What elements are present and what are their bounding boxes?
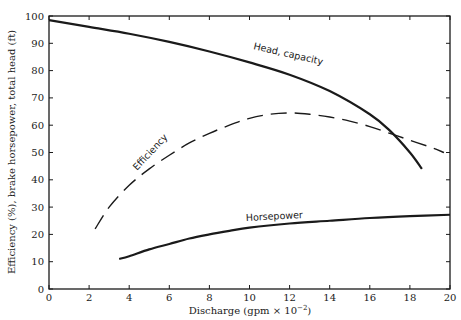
x-tick-label: 18 (404, 292, 417, 303)
plot-frame (49, 16, 450, 289)
curve-label-horsepower: Horsepower (246, 209, 304, 223)
y-tick-label: 20 (31, 229, 44, 240)
y-tick-label: 90 (31, 38, 44, 49)
x-tick-label: 14 (323, 292, 336, 303)
x-tick-label: 2 (86, 292, 92, 303)
curve-label-head: Head, capacity (253, 40, 325, 67)
y-tick-label: 30 (31, 202, 44, 213)
x-tick-label: 20 (444, 292, 457, 303)
y-tick-label: 70 (31, 92, 44, 103)
pump-characteristic-chart: 02468101214161820 0102030405060708090100… (0, 0, 461, 320)
y-tick-label: 80 (31, 65, 44, 76)
y-axis-title: Efficiency (%), brake horsepower, total … (6, 30, 17, 274)
curve-label-efficiency: Efficiency (130, 131, 170, 172)
y-tick-label: 100 (25, 11, 44, 22)
curves (49, 20, 450, 259)
curve-head-capacity (49, 20, 422, 169)
y-tick-label: 40 (31, 174, 44, 185)
y-axis-ticks: 0102030405060708090100 (25, 11, 450, 295)
x-tick-label: 6 (166, 292, 172, 303)
x-tick-label: 0 (46, 292, 52, 303)
x-tick-label: 8 (206, 292, 212, 303)
y-tick-label: 50 (31, 147, 44, 158)
y-tick-label: 60 (31, 120, 44, 131)
curve-horsepower (119, 215, 450, 259)
y-tick-label: 10 (31, 256, 44, 267)
y-tick-label: 0 (38, 284, 44, 295)
x-axis-title: Discharge (gpm × 10−2) (189, 304, 312, 316)
x-tick-label: 12 (283, 292, 296, 303)
x-tick-label: 4 (126, 292, 132, 303)
x-tick-label: 16 (363, 292, 376, 303)
x-axis-ticks: 02468101214161820 (46, 16, 457, 303)
x-tick-label: 10 (243, 292, 256, 303)
